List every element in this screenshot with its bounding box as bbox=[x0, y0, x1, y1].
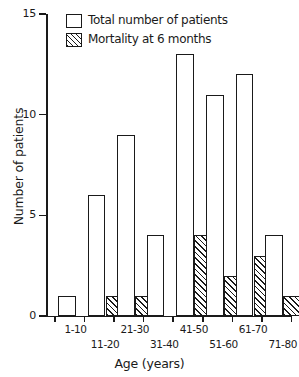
legend-item-mortality: Mortality at 6 months bbox=[66, 31, 228, 48]
y-axis-tick-label: 15 bbox=[0, 8, 36, 19]
y-axis-tick bbox=[39, 13, 46, 15]
y-axis-tick-label: 10 bbox=[0, 109, 36, 120]
x-axis-tick-label: 21-30 bbox=[120, 324, 149, 335]
y-axis-tick-label: 5 bbox=[0, 209, 36, 220]
y-axis-line bbox=[46, 14, 48, 317]
x-axis-tick bbox=[232, 316, 234, 322]
x-axis-tick bbox=[261, 316, 263, 322]
y-axis-tick bbox=[39, 315, 46, 317]
legend-item-total: Total number of patients bbox=[66, 12, 228, 29]
x-axis-tick bbox=[143, 316, 145, 322]
y-axis-tick-label: 0 bbox=[0, 310, 36, 321]
bar-total bbox=[206, 95, 224, 316]
bar-chart: Total number of patients Mortality at 6 … bbox=[0, 0, 299, 377]
bar-total bbox=[88, 195, 106, 316]
bar-total bbox=[265, 235, 283, 316]
y-axis-tick bbox=[39, 215, 46, 217]
bar-total bbox=[236, 74, 254, 316]
hatched-square-icon bbox=[66, 33, 82, 47]
x-axis-tick-label: 1-10 bbox=[64, 324, 86, 335]
x-axis-tick-label: 41-50 bbox=[180, 324, 209, 335]
x-axis-tick bbox=[84, 316, 86, 322]
bar-total bbox=[58, 296, 76, 316]
x-axis-tick-label: 31-40 bbox=[150, 339, 179, 350]
bar-mortality bbox=[283, 296, 299, 316]
x-axis-tick-label: 71-80 bbox=[268, 339, 297, 350]
legend-label-mortality: Mortality at 6 months bbox=[88, 33, 211, 46]
x-axis-tick bbox=[291, 316, 293, 322]
legend-label-total: Total number of patients bbox=[88, 14, 228, 27]
x-axis-tick bbox=[202, 316, 204, 322]
x-axis-title: Age (years) bbox=[0, 356, 299, 371]
x-axis-tick bbox=[113, 316, 115, 322]
chart-legend: Total number of patients Mortality at 6 … bbox=[66, 12, 228, 50]
x-axis-tick bbox=[172, 316, 174, 322]
bar-total bbox=[117, 135, 135, 316]
bar-total bbox=[147, 235, 165, 316]
x-axis-tick bbox=[54, 316, 56, 322]
x-axis-tick-label: 61-70 bbox=[239, 324, 268, 335]
open-square-icon bbox=[66, 14, 82, 28]
x-axis-tick-label: 51-60 bbox=[209, 339, 238, 350]
y-axis-tick bbox=[39, 114, 46, 116]
x-axis-tick-label: 11-20 bbox=[91, 339, 120, 350]
bar-total bbox=[176, 54, 194, 316]
